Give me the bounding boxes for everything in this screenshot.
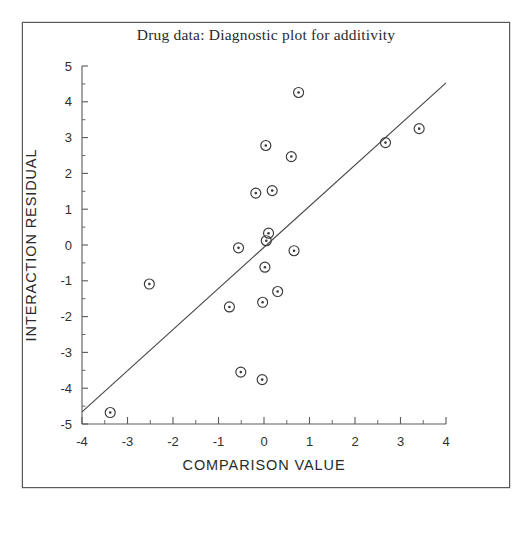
- figure-container: Drug data: Diagnostic plot for additivit…: [0, 0, 532, 534]
- data-point: [144, 279, 154, 289]
- data-point: [414, 124, 424, 134]
- x-tick-label--4: -4: [76, 434, 88, 449]
- data-points-group: [105, 87, 424, 417]
- y-tick-label-4: 4: [65, 94, 72, 109]
- marker-dot: [261, 378, 264, 381]
- y-tick-label-3: 3: [65, 130, 72, 145]
- marker-dot: [265, 239, 268, 242]
- y-tick-label-5: 5: [65, 59, 72, 74]
- marker-dot: [261, 301, 264, 304]
- y-axis-ticks: [82, 66, 88, 424]
- data-point: [294, 87, 304, 97]
- x-tick-label-0: 0: [260, 434, 267, 449]
- data-point: [258, 297, 268, 307]
- fitted-line: [82, 83, 446, 412]
- marker-dot: [297, 91, 300, 94]
- y-tick-label-0: 0: [65, 238, 72, 253]
- x-tick-label--2: -2: [167, 434, 179, 449]
- x-tick-label-1: 1: [306, 434, 313, 449]
- marker-dot: [265, 144, 268, 147]
- data-point: [224, 302, 234, 312]
- data-point: [234, 243, 244, 253]
- x-tick-label-4: 4: [442, 434, 449, 449]
- y-axis-title: INTERACTION RESIDUAL: [23, 149, 39, 342]
- data-point: [105, 408, 115, 418]
- data-point: [260, 262, 270, 272]
- marker-dot: [239, 371, 242, 374]
- marker-dot: [148, 283, 151, 286]
- data-point: [289, 246, 299, 256]
- x-tick-label--3: -3: [122, 434, 134, 449]
- data-point: [257, 375, 267, 385]
- y-tick-label--2: -2: [60, 309, 72, 324]
- marker-dot: [276, 290, 279, 293]
- marker-dot: [271, 189, 274, 192]
- data-point: [380, 138, 390, 148]
- marker-dot: [290, 155, 293, 158]
- data-point: [286, 152, 296, 162]
- x-tick-label-3: 3: [397, 434, 404, 449]
- marker-dot: [264, 266, 267, 269]
- y-tick-label--3: -3: [60, 345, 72, 360]
- reference-line: [82, 83, 446, 412]
- x-axis-ticks: [82, 417, 446, 424]
- data-point: [251, 188, 261, 198]
- data-point: [267, 186, 277, 196]
- data-point: [236, 367, 246, 377]
- y-tick-label--4: -4: [60, 381, 72, 396]
- marker-dot: [293, 249, 296, 252]
- marker-dot: [237, 247, 240, 250]
- x-axis-title: COMPARISON VALUE: [183, 457, 346, 473]
- y-tick-label--1: -1: [60, 273, 72, 288]
- x-tick-label--1: -1: [213, 434, 225, 449]
- marker-dot: [109, 411, 112, 414]
- x-axis-tick-labels: -4-3-2-101234: [76, 434, 449, 449]
- data-point: [261, 140, 271, 150]
- marker-dot: [267, 232, 270, 235]
- marker-dot: [384, 141, 387, 144]
- scatter-plot-svg: -5-4-3-2-1012345 -4-3-2-101234 COMPARISO…: [0, 0, 532, 534]
- marker-dot: [255, 192, 258, 195]
- y-tick-label-2: 2: [65, 166, 72, 181]
- y-axis-tick-labels: -5-4-3-2-1012345: [60, 59, 72, 432]
- marker-dot: [418, 127, 421, 130]
- y-tick-label--5: -5: [60, 417, 72, 432]
- x-tick-label-2: 2: [351, 434, 358, 449]
- marker-dot: [228, 306, 231, 309]
- y-tick-label-1: 1: [65, 202, 72, 217]
- data-point: [273, 287, 283, 297]
